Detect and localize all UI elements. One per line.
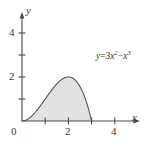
x-tick-label-2: 2 <box>65 126 71 137</box>
curve-equation-label: y=3x2−x3 <box>96 52 131 62</box>
origin-label: 0 <box>11 126 17 137</box>
y-tick-label-4: 4 <box>9 27 15 38</box>
y-axis-label: y <box>26 5 31 16</box>
x-axis-label: x <box>132 112 137 123</box>
area-under-curve-figure: 0 2 4 2 4 x y y=3x2−x3 <box>0 0 159 150</box>
plot-canvas <box>0 0 159 150</box>
y-axis-arrow <box>20 12 25 19</box>
x-tick-label-4: 4 <box>111 126 117 137</box>
y-tick-label-2: 2 <box>9 71 15 82</box>
equation-term2-exponent: 3 <box>127 49 130 56</box>
